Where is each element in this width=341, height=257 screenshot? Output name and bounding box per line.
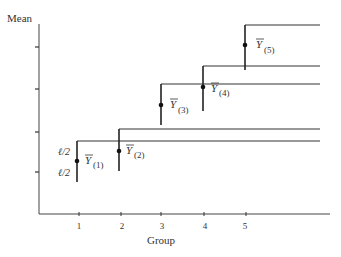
interval-group-2 [117, 129, 122, 171]
svg-text:Y: Y [170, 98, 178, 110]
mean-dot-4 [201, 85, 206, 90]
svg-text:(5): (5) [264, 45, 275, 55]
svg-text:(2): (2) [134, 150, 145, 160]
svg-text:Y: Y [256, 38, 264, 50]
mean-label-1: Y (1) [85, 154, 104, 170]
interval-group-5 [243, 25, 248, 70]
interval-group-4 [201, 66, 206, 111]
x-tick-label-3: 3 [160, 221, 165, 231]
x-tick-label-4: 4 [203, 221, 208, 231]
interval-top-lines [77, 25, 320, 141]
x-tick-label-2: 2 [120, 221, 125, 231]
mean-label-2: Y (2) [126, 144, 145, 160]
x-tick-label-5: 5 [243, 221, 248, 231]
svg-text:(3): (3) [178, 105, 189, 115]
svg-text:(4): (4) [219, 88, 230, 98]
mean-dot-5 [243, 43, 248, 48]
half-width-upper-label: ℓ/2 [58, 146, 70, 157]
svg-text:(1): (1) [93, 160, 104, 170]
y-axis-title: Mean [7, 12, 33, 24]
half-width-lower-label: ℓ/2 [58, 167, 70, 178]
interval-group-1 [75, 141, 80, 182]
y-ticks [35, 47, 39, 172]
mean-label-5: Y (5) [256, 38, 275, 55]
mean-dot-2 [117, 149, 122, 154]
mean-dot-1 [75, 159, 80, 164]
x-axis-title: Group [147, 234, 176, 246]
x-tick-label-1: 1 [77, 221, 82, 231]
interval-group-3 [159, 84, 164, 125]
mean-label-3: Y (3) [170, 98, 189, 115]
chart-canvas: 1 2 3 4 5 Mean Group ℓ/2 ℓ/2 Y (1) [0, 0, 341, 257]
svg-text:Y: Y [85, 154, 93, 166]
mean-dot-3 [159, 103, 164, 108]
svg-text:Y: Y [126, 144, 134, 156]
